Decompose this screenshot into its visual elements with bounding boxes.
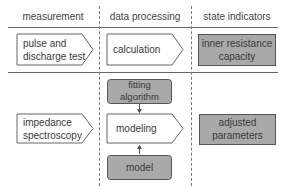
model-label: model	[107, 161, 172, 174]
adjusted-parameters-label: adjusted parameters	[199, 116, 276, 142]
pulse-discharge-label: pulse and discharge test	[23, 37, 85, 63]
fitting-algorithm-label: fitting algorithm	[107, 79, 172, 103]
impedance-label: impedance spectroscopy	[23, 116, 82, 142]
calculation-label: calculation	[113, 43, 160, 56]
modeling-label: modeling	[116, 122, 157, 135]
inner-resistance-label: inner resistance capacity	[198, 37, 276, 63]
